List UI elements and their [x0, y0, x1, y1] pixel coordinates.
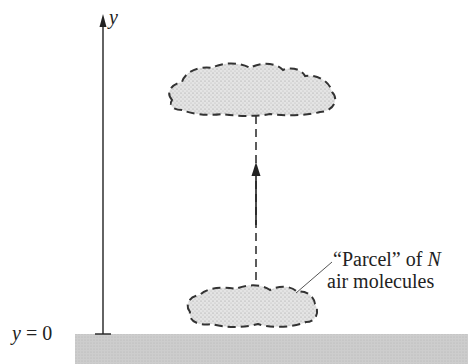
ground — [75, 334, 468, 364]
diagram-canvas — [0, 0, 468, 364]
y-axis — [95, 14, 111, 334]
parcel-label-line1: “Parcel” of N — [333, 248, 441, 270]
origin-var: y — [12, 322, 21, 344]
y-axis-label: y — [109, 6, 118, 28]
parcel-label: “Parcel” of N air molecules — [333, 248, 441, 292]
axis-arrowhead-icon — [100, 14, 107, 27]
rise-arrow-icon — [252, 162, 261, 176]
parcel-cloud-top — [169, 64, 335, 116]
parcel-label-line2: air molecules — [327, 270, 441, 292]
origin-label: y = 0 — [12, 322, 52, 344]
origin-eq: = 0 — [26, 322, 52, 344]
